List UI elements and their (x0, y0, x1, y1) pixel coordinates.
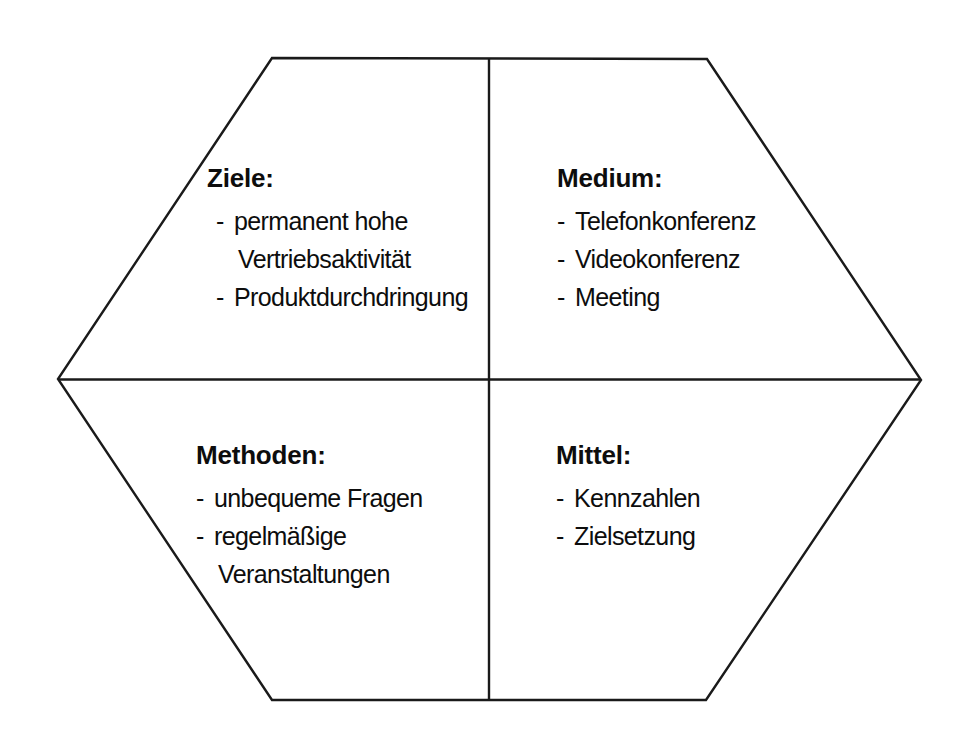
list-item: -Produktdurchdringung (216, 278, 468, 316)
list-item: -Videokonferenz (557, 240, 756, 278)
bullet-dash: - (216, 202, 234, 240)
quadrant-mittel: Mittel: -Kennzahlen -Zielsetzung (556, 440, 700, 555)
quadrant-medium-heading: Medium: (557, 163, 756, 193)
list-item: Veranstaltungen (196, 555, 423, 593)
quadrant-ziele-list: -permanent hohe Vertriebsaktivität -Prod… (216, 202, 468, 316)
diagram-canvas: Ziele: -permanent hohe Vertriebsaktivitä… (0, 0, 979, 739)
list-item-text: Kennzahlen (574, 484, 700, 512)
list-item-text: Telefonkonferenz (575, 207, 756, 235)
list-item-text: Meeting (575, 283, 660, 311)
list-item-text: Veranstaltungen (218, 560, 390, 588)
quadrant-methoden: Methoden: -unbequeme Fragen -regelmäßige… (196, 440, 423, 593)
list-item: -Zielsetzung (556, 517, 700, 555)
list-item-text: Zielsetzung (574, 522, 695, 550)
list-item-text: unbequeme Fragen (214, 484, 423, 512)
list-item: -regelmäßige (196, 517, 423, 555)
bullet-dash: - (556, 479, 574, 517)
bullet-dash: - (196, 517, 214, 555)
bullet-dash: - (557, 240, 575, 278)
quadrant-ziele: Ziele: -permanent hohe Vertriebsaktivitä… (207, 163, 468, 316)
bullet-dash: - (196, 479, 214, 517)
quadrant-medium-list: -Telefonkonferenz -Videokonferenz -Meeti… (557, 202, 756, 316)
list-item: Vertriebsaktivität (216, 240, 468, 278)
quadrant-mittel-list: -Kennzahlen -Zielsetzung (556, 479, 700, 555)
list-item-text: Vertriebsaktivität (238, 245, 411, 273)
list-item: -Kennzahlen (556, 479, 700, 517)
bullet-dash: - (557, 278, 575, 316)
bullet-dash: - (556, 517, 574, 555)
bullet-dash: - (557, 202, 575, 240)
list-item-text: Produktdurchdringung (234, 283, 468, 311)
quadrant-mittel-heading: Mittel: (556, 440, 700, 470)
list-item-text: Videokonferenz (575, 245, 740, 273)
quadrant-methoden-heading: Methoden: (196, 440, 423, 470)
list-item: -Telefonkonferenz (557, 202, 756, 240)
bullet-dash: - (216, 278, 234, 316)
quadrant-methoden-list: -unbequeme Fragen -regelmäßige Veranstal… (196, 479, 423, 593)
list-item: -permanent hohe (216, 202, 468, 240)
quadrant-ziele-heading: Ziele: (207, 163, 468, 193)
list-item: -unbequeme Fragen (196, 479, 423, 517)
list-item-text: regelmäßige (214, 522, 346, 550)
list-item-text: permanent hohe (234, 207, 408, 235)
hexagon-outline (0, 0, 979, 739)
quadrant-medium: Medium: -Telefonkonferenz -Videokonferen… (557, 163, 756, 316)
list-item: -Meeting (557, 278, 756, 316)
